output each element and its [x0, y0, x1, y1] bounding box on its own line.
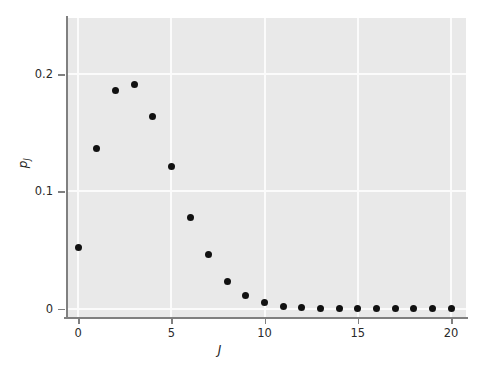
data-point — [261, 299, 268, 306]
y-tick-mark — [58, 74, 65, 76]
data-point — [448, 305, 455, 312]
x-tick-mark — [451, 318, 453, 324]
gridline-vertical — [450, 18, 452, 318]
data-point — [429, 305, 436, 312]
y-tick-mark — [58, 191, 65, 193]
y-tick-label: 0 — [46, 303, 53, 315]
y-tick-mark — [58, 309, 65, 311]
data-point — [242, 292, 249, 299]
x-tick-mark — [78, 318, 80, 324]
data-point — [336, 305, 343, 312]
y-axis-line — [66, 16, 68, 319]
x-tick-mark — [171, 318, 173, 324]
gridline-vertical — [357, 18, 359, 318]
gridline-vertical — [77, 18, 79, 318]
data-point — [354, 305, 361, 312]
data-point — [149, 113, 156, 120]
data-point — [93, 145, 100, 152]
data-point — [112, 87, 119, 94]
x-tick-label: 15 — [338, 327, 378, 340]
data-point — [410, 305, 417, 312]
y-axis-title: pJ — [16, 133, 32, 193]
data-point — [392, 305, 399, 312]
y-axis-title-subscript: J — [23, 158, 32, 160]
data-point — [317, 305, 324, 312]
x-axis-title-text: J — [218, 343, 222, 357]
y-tick-label: 0.2 — [35, 68, 53, 80]
x-tick-label: 5 — [151, 327, 191, 340]
gridline-horizontal — [67, 73, 466, 75]
data-point — [298, 304, 305, 311]
x-tick-mark — [358, 318, 360, 324]
x-axis-title: J — [0, 343, 491, 357]
x-tick-label: 20 — [431, 327, 471, 340]
data-point — [168, 163, 175, 170]
data-point — [131, 81, 138, 88]
gridline-vertical — [264, 18, 266, 318]
gridline-horizontal — [67, 190, 466, 192]
data-point — [205, 251, 212, 258]
data-point — [280, 303, 287, 310]
plot-panel — [67, 18, 466, 318]
data-point — [75, 244, 82, 251]
data-point — [224, 278, 231, 285]
data-point — [187, 214, 194, 221]
data-point — [373, 305, 380, 312]
gridline-horizontal — [67, 308, 466, 310]
x-tick-label: 0 — [58, 327, 98, 340]
y-tick-label: 0.1 — [35, 185, 53, 197]
x-tick-mark — [265, 318, 267, 324]
scatter-figure: 05101520 00.10.2 J pJ — [0, 0, 491, 375]
x-tick-label: 10 — [245, 327, 285, 340]
y-axis-title-text: p — [16, 161, 30, 169]
